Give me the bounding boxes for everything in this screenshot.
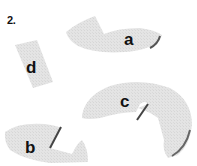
piece-label-c: c [120,92,129,111]
puzzle-piece-d: d [15,40,53,88]
puzzle-piece-a: a [66,16,162,52]
piece-label-d: d [26,58,36,77]
piece-label-b: b [25,138,35,157]
puzzle-piece-b: b [5,124,88,163]
puzzle-piece-c: c [82,82,192,158]
piece-label-a: a [124,30,134,49]
